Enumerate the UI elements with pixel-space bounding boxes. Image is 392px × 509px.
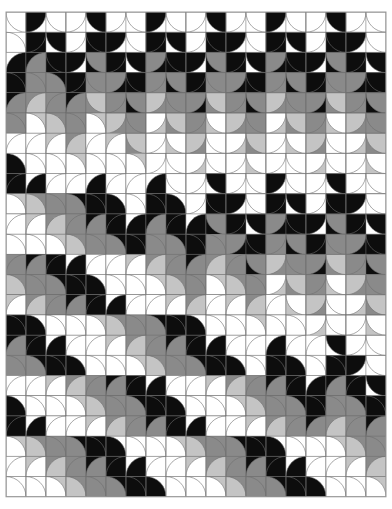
scale-pattern-artwork — [0, 0, 392, 509]
